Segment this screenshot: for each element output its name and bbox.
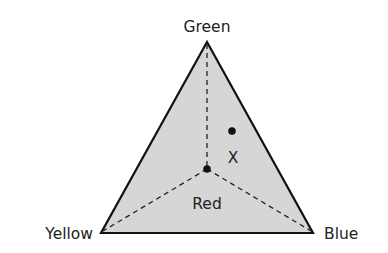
ternary-diagram: Green Yellow Blue X Red <box>0 0 388 253</box>
vertex-label-yellow: Yellow <box>44 225 93 243</box>
point-label-x: X <box>228 149 239 167</box>
center-point <box>203 165 211 173</box>
region-label-red: Red <box>192 195 221 213</box>
vertex-label-green: Green <box>184 18 231 36</box>
vertex-label-blue: Blue <box>324 225 358 243</box>
point-x <box>228 127 236 135</box>
